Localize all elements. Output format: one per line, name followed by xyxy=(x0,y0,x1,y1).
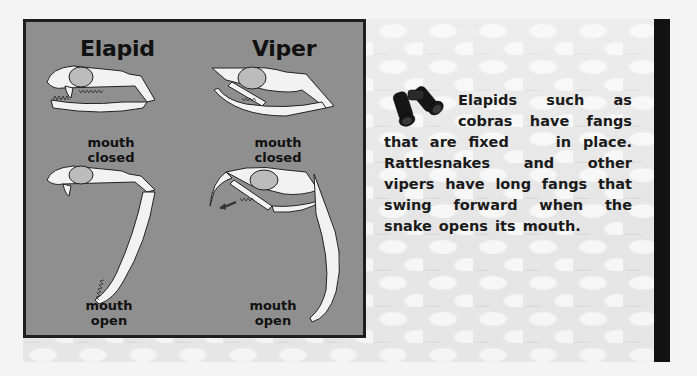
viper-open-caption-line2: open xyxy=(248,313,298,328)
elapid-skull-closed-icon xyxy=(43,62,163,120)
viper-closed-caption: mouth closed xyxy=(233,135,323,165)
elapid-open-caption: mouth open xyxy=(84,298,134,328)
viper-open-caption-line1: mouth xyxy=(248,298,298,313)
icon-spacer xyxy=(384,90,458,132)
elapid-open-caption-line1: mouth xyxy=(84,298,134,313)
viper-skull-closed-icon xyxy=(206,62,336,124)
elapid-skull-open-icon xyxy=(43,162,173,312)
fang-comparison-panel: Elapid Viper mouth closed mouth closed xyxy=(23,19,366,338)
viper-title: Viper xyxy=(252,36,316,61)
elapid-closed-caption: mouth closed xyxy=(66,135,156,165)
fang-explanation-text: Elapids such as cobras have fangs that a… xyxy=(384,90,632,237)
elapid-open-caption-line2: open xyxy=(84,313,134,328)
black-side-bar xyxy=(654,19,670,362)
elapid-title: Elapid xyxy=(80,36,155,61)
viper-open-caption: mouth open xyxy=(248,298,298,328)
